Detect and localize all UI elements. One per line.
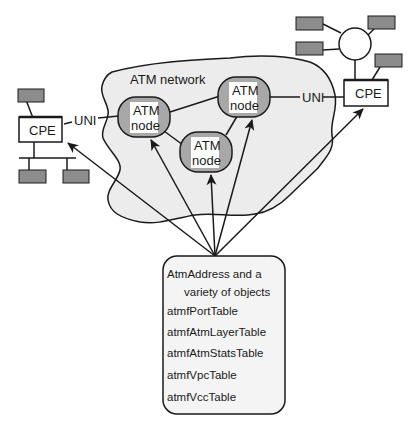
mib-table-atm-layer: atmfAtmLayerTable: [167, 326, 266, 338]
link-left-cpe-device: [26, 100, 33, 118]
right-device-2: [296, 42, 323, 55]
cpe-device-link: [372, 67, 380, 80]
network-label: ATM network: [130, 72, 206, 87]
left-device-bottom-2: [63, 170, 89, 183]
left-uni-tick: [64, 122, 72, 124]
node-right-label-2: node: [230, 98, 259, 113]
left-device-bottom-1: [19, 170, 46, 183]
node-right-label-1: ATM: [232, 83, 258, 98]
right-cpe-label: CPE: [355, 86, 382, 101]
right-uni-label: UNI: [302, 90, 324, 105]
node-left-label-2: node: [131, 118, 160, 133]
hub-link-2: [323, 49, 339, 50]
right-device-3: [368, 16, 395, 29]
right-hub: [339, 28, 371, 60]
right-device-4: [375, 54, 402, 67]
left-cpe-label: CPE: [29, 123, 56, 138]
mib-table-port: atmfPortTable: [167, 305, 238, 317]
node-bottom-label-2: node: [192, 153, 221, 168]
mib-box-title-1: AtmAddress and a: [167, 268, 262, 280]
node-left-label-1: ATM: [133, 103, 159, 118]
hub-link-1: [323, 24, 341, 33]
atm-node-bottom: ATM node: [180, 132, 232, 172]
atm-node-right: ATM node: [218, 77, 270, 117]
mib-box-title-2: variety of objects: [184, 286, 271, 298]
mib-table-vpc: atmfVpcTable: [167, 369, 237, 381]
left-device-top: [18, 89, 44, 102]
node-bottom-label-1: ATM: [194, 138, 220, 153]
left-uni-label: UNI: [74, 113, 96, 128]
atm-network-diagram: ATM network CPE UNI ATM node ATM node AT…: [0, 0, 419, 424]
mib-table-vcc: atmfVccTable: [167, 391, 236, 403]
right-device-1: [296, 17, 323, 30]
atm-node-left: ATM node: [118, 97, 170, 137]
mib-table-atm-stats: atmfAtmStatsTable: [167, 347, 264, 359]
